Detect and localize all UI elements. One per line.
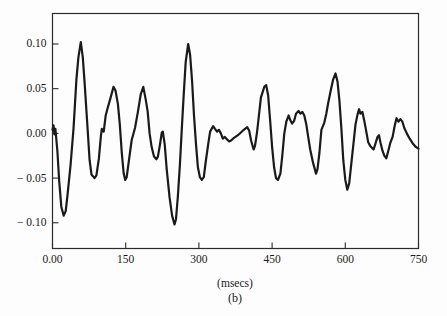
x-tick-label: 300 — [190, 253, 208, 265]
plot-frame — [53, 14, 419, 249]
x-tick-label: 450 — [263, 253, 281, 265]
y-tick-label: − 0.05 — [17, 172, 47, 184]
x-tick-label: 0.00 — [42, 253, 62, 265]
y-tick-label: 0.05 — [26, 82, 46, 94]
y-tick-label: − 0.10 — [17, 216, 47, 228]
figure-page: 0.001503004506007500.100.050.00− 0.05− 0… — [0, 0, 447, 316]
waveform-path — [53, 42, 419, 224]
x-tick-label: 600 — [337, 253, 355, 265]
subfigure-caption: (b) — [52, 292, 418, 305]
x-tick-label: 150 — [117, 253, 135, 265]
x-axis-unit-label: (msecs) — [52, 277, 418, 290]
y-tick-label: 0.10 — [26, 37, 46, 49]
x-tick-label: 750 — [410, 253, 428, 265]
y-tick-label: 0.00 — [26, 127, 46, 139]
waveform-chart: 0.001503004506007500.100.050.00− 0.05− 0… — [0, 0, 447, 316]
